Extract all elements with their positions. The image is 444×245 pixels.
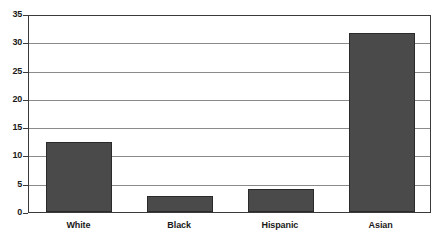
x-axis-category-label: Black (129, 221, 230, 230)
plot-area (28, 15, 431, 213)
y-axis-tick-label: 30 (0, 38, 22, 47)
bar-chart: 05101520253035 WhiteBlackHispanicAsian (0, 0, 444, 245)
y-axis-tick-label: 15 (0, 123, 22, 132)
y-axis-tick-mark (23, 213, 28, 214)
y-axis-tick-mark (23, 100, 28, 101)
y-axis-tick-label: 20 (0, 95, 22, 104)
bar (46, 142, 112, 212)
y-axis-tick-mark (23, 128, 28, 129)
y-axis-tick-label: 10 (0, 151, 22, 160)
y-axis-tick-label: 0 (0, 208, 22, 217)
bar (147, 196, 213, 212)
y-axis-tick-label: 25 (0, 67, 22, 76)
x-axis-category-label: Hispanic (230, 221, 331, 230)
bar (248, 189, 314, 212)
x-axis-category-label: White (28, 221, 129, 230)
y-axis-tick-mark (23, 43, 28, 44)
y-axis-tick-mark (23, 156, 28, 157)
y-axis-tick-mark (23, 185, 28, 186)
y-axis-tick-label: 35 (0, 10, 22, 19)
y-axis-tick-label: 5 (0, 180, 22, 189)
y-axis-tick-mark (23, 72, 28, 73)
x-axis-category-label: Asian (330, 221, 431, 230)
y-axis-tick-mark (23, 15, 28, 16)
bar (349, 33, 415, 212)
